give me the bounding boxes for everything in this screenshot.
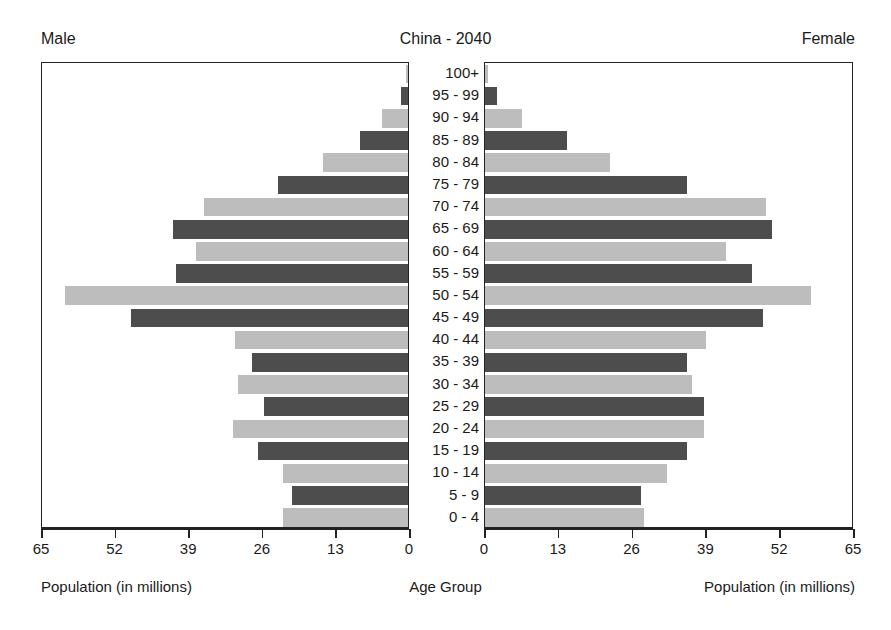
- female-bar-row: [485, 152, 852, 174]
- male-axis-tick: [188, 529, 190, 538]
- age-group-label: 85 - 89: [432, 129, 479, 151]
- male-bar-row: [42, 174, 408, 196]
- female-axis-tick-label: 13: [549, 540, 566, 557]
- female-bar: [485, 331, 706, 350]
- female-bar-row: [485, 241, 852, 263]
- age-group-label: 50 - 54: [432, 284, 479, 306]
- male-bar: [278, 176, 408, 195]
- male-axis-tick: [409, 529, 411, 538]
- female-bar-row: [485, 263, 852, 285]
- age-group-label: 40 - 44: [432, 328, 479, 350]
- female-bar: [485, 286, 811, 305]
- female-bar: [485, 220, 772, 239]
- male-axis-tick-label: 26: [253, 540, 270, 557]
- male-bar-row: [42, 152, 408, 174]
- female-bars: [485, 63, 852, 527]
- female-bar-row: [485, 285, 852, 307]
- female-bar-row: [485, 418, 852, 440]
- male-bar: [258, 442, 408, 461]
- female-bar: [485, 198, 766, 217]
- female-bar: [485, 508, 644, 527]
- male-bar: [382, 109, 408, 128]
- male-axis-tick: [262, 529, 264, 538]
- female-bar: [485, 65, 488, 84]
- male-bar-row: [42, 107, 408, 129]
- male-plot-area: [41, 62, 409, 528]
- female-bar: [485, 486, 641, 505]
- male-bar-row: [42, 196, 408, 218]
- female-bar: [485, 353, 687, 372]
- male-bar-row: [42, 351, 408, 373]
- population-pyramid-chart: Male China - 2040 Female 100+95 - 9990 -…: [0, 0, 891, 630]
- male-bar-row: [42, 374, 408, 396]
- female-bar: [485, 153, 610, 172]
- female-bar-row: [485, 485, 852, 507]
- female-bar-row: [485, 351, 852, 373]
- female-axis-tick-label: 0: [480, 540, 488, 557]
- male-bar: [401, 87, 408, 106]
- female-bar: [485, 242, 726, 261]
- female-plot-area: [484, 62, 853, 528]
- male-bar: [173, 220, 408, 239]
- female-bar-row: [485, 218, 852, 240]
- female-bar: [485, 309, 763, 328]
- male-bar-row: [42, 263, 408, 285]
- male-bar-row: [42, 462, 408, 484]
- age-group-label: 70 - 74: [432, 195, 479, 217]
- female-bar: [485, 420, 704, 439]
- male-bar: [235, 331, 408, 350]
- female-bar: [485, 131, 567, 150]
- female-bar-row: [485, 462, 852, 484]
- female-bar-row: [485, 440, 852, 462]
- female-bar: [485, 109, 522, 128]
- age-group-label: 80 - 84: [432, 151, 479, 173]
- female-bar-row: [485, 329, 852, 351]
- male-bar-row: [42, 85, 408, 107]
- female-axis-tick: [853, 529, 855, 538]
- female-bar-row: [485, 196, 852, 218]
- age-group-label: 75 - 79: [432, 173, 479, 195]
- female-axis-tick-label: 65: [845, 540, 862, 557]
- male-bar: [204, 198, 408, 217]
- age-group-label: 90 - 94: [432, 106, 479, 128]
- age-group-label: 20 - 24: [432, 417, 479, 439]
- age-group-label: 55 - 59: [432, 262, 479, 284]
- male-axis-tick-label: 13: [327, 540, 344, 557]
- female-bar: [485, 176, 687, 195]
- female-bar-row: [485, 85, 852, 107]
- male-bar: [264, 397, 408, 416]
- female-bar-row: [485, 63, 852, 85]
- female-axis-tick-label: 39: [697, 540, 714, 557]
- female-bar-row: [485, 396, 852, 418]
- female-bar: [485, 87, 497, 106]
- age-group-label: 60 - 64: [432, 240, 479, 262]
- male-axis-tick: [115, 529, 117, 538]
- scan-artifact: [60, 4, 760, 9]
- female-axis-tick: [484, 529, 486, 538]
- chart-title: China - 2040: [0, 30, 891, 48]
- age-group-label: 30 - 34: [432, 373, 479, 395]
- male-bar-row: [42, 130, 408, 152]
- age-group-label: 25 - 29: [432, 395, 479, 417]
- female-bar-row: [485, 507, 852, 529]
- male-bar: [176, 264, 408, 283]
- male-bar: [360, 131, 408, 150]
- female-axis-tick: [558, 529, 560, 538]
- age-group-label: 100+: [445, 62, 479, 84]
- male-bar-row: [42, 285, 408, 307]
- male-bar: [196, 242, 408, 261]
- male-axis-tick: [335, 529, 337, 538]
- female-axis-tick: [632, 529, 634, 538]
- age-group-axis: 100+95 - 9990 - 9485 - 8980 - 8475 - 797…: [409, 62, 484, 528]
- age-group-label: 5 - 9: [449, 484, 479, 506]
- female-bar-row: [485, 374, 852, 396]
- female-bar: [485, 375, 692, 394]
- male-axis-tick: [41, 529, 43, 538]
- male-axis-tick-label: 65: [33, 540, 50, 557]
- male-bar-row: [42, 440, 408, 462]
- male-bar: [292, 486, 408, 505]
- age-group-label: 0 - 4: [449, 506, 479, 528]
- male-axis-tick-label: 52: [106, 540, 123, 557]
- male-bar: [131, 309, 408, 328]
- male-bar-row: [42, 218, 408, 240]
